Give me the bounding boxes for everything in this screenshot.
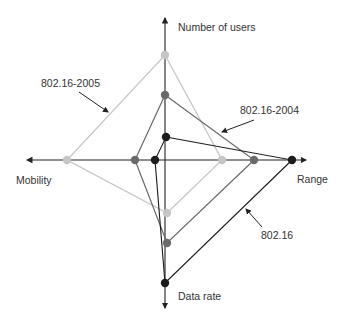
axis-label-mobility: Mobility: [16, 175, 52, 186]
axis-label-data-rate: Data rate: [178, 291, 221, 302]
axis-label-range: Range: [297, 174, 328, 185]
callout-arrow-2004: [222, 120, 254, 132]
radar-diagram: [0, 0, 345, 323]
series-label-802-16-2004: 802.16-2004: [240, 105, 299, 116]
callout-arrow-802-16: [246, 209, 262, 227]
series-802-16: [151, 133, 296, 287]
series-label-802-16-2005: 802.16-2005: [41, 78, 100, 89]
axis-label-number-of-users: Number of users: [178, 22, 256, 33]
series-802-16-2005: [63, 51, 226, 217]
series-label-802-16: 802.16: [261, 230, 293, 241]
callout-arrow-2005: [79, 92, 108, 112]
